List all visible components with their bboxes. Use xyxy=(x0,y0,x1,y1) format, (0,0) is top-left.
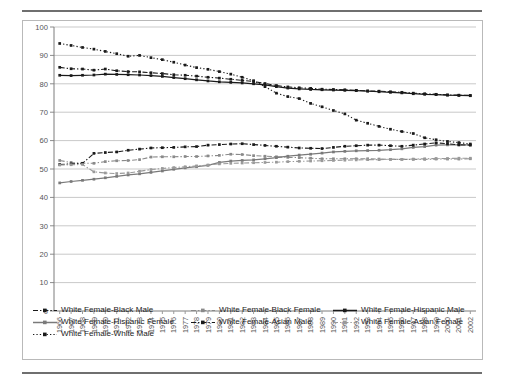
series-marker xyxy=(172,76,175,79)
series-marker xyxy=(298,88,301,91)
series-marker xyxy=(93,69,96,72)
series-marker xyxy=(115,73,118,76)
series-marker xyxy=(298,160,301,163)
series-marker xyxy=(229,162,232,165)
y-axis-tick-label: 50 xyxy=(40,165,48,174)
bottom-rule xyxy=(22,372,482,374)
series-marker xyxy=(58,164,61,167)
series-marker xyxy=(355,89,358,92)
series-marker xyxy=(366,149,369,152)
series-marker xyxy=(458,157,461,160)
series-marker xyxy=(195,66,198,69)
series-marker xyxy=(332,89,335,92)
legend-item-label: White Female-Hispanic Male xyxy=(361,306,464,314)
series-marker xyxy=(172,155,175,158)
series-marker xyxy=(104,73,107,76)
series-marker xyxy=(423,136,426,139)
series-marker xyxy=(401,130,404,133)
series-marker xyxy=(343,113,346,116)
series-marker xyxy=(241,153,244,156)
series-marker xyxy=(275,145,278,148)
series-marker xyxy=(115,69,118,72)
legend-item-label: White Female-Asian Male xyxy=(219,318,312,326)
y-axis-tick-label: 20 xyxy=(40,250,48,259)
series-marker xyxy=(321,105,324,108)
legend-item[interactable]: White Female-Black Female xyxy=(190,306,332,315)
series-marker xyxy=(264,155,267,158)
series-marker xyxy=(252,82,255,85)
series-marker xyxy=(150,56,153,59)
series-marker xyxy=(309,157,312,160)
series-marker xyxy=(389,91,392,94)
legend-item[interactable]: White Female-Asian Male xyxy=(190,318,332,327)
series-marker xyxy=(241,142,244,145)
legend-item[interactable]: White Female-Asian Female xyxy=(332,318,473,327)
series-marker xyxy=(469,94,472,97)
series-marker xyxy=(218,77,221,80)
series-marker xyxy=(229,81,232,84)
series-marker xyxy=(286,160,289,163)
series-marker xyxy=(127,73,130,76)
legend-swatch-icon xyxy=(332,306,358,315)
legend-swatch-icon xyxy=(32,318,58,327)
series-marker xyxy=(58,66,61,69)
series-marker xyxy=(81,46,84,49)
series-marker xyxy=(435,93,438,96)
series-marker xyxy=(115,159,118,162)
series-marker xyxy=(195,155,198,158)
series-marker xyxy=(115,151,118,154)
legend-item[interactable]: White Female-Hispanic Female xyxy=(32,318,190,327)
series-marker xyxy=(378,149,381,152)
series-marker xyxy=(207,68,210,71)
series-marker xyxy=(93,152,96,155)
series-marker xyxy=(93,48,96,51)
legend-item-label: White Female-Asian Female xyxy=(361,318,463,326)
series-marker xyxy=(104,151,107,154)
series-marker xyxy=(229,78,232,81)
series-marker xyxy=(150,74,153,77)
y-axis-tick-label: 40 xyxy=(40,193,48,202)
series-marker xyxy=(355,159,358,162)
series-marker xyxy=(104,68,107,71)
series-marker xyxy=(93,178,96,181)
series-marker xyxy=(138,74,141,77)
series-marker xyxy=(332,146,335,149)
series-marker xyxy=(229,143,232,146)
series-marker xyxy=(70,74,73,77)
series-marker xyxy=(93,74,96,77)
series-marker xyxy=(81,163,84,166)
legend-item[interactable]: White Female-Black Male xyxy=(32,306,190,315)
legend-swatch-icon xyxy=(32,330,58,339)
series-marker xyxy=(195,145,198,148)
series-marker xyxy=(195,75,198,78)
series-marker xyxy=(343,150,346,153)
series-marker xyxy=(423,145,426,148)
series-marker xyxy=(241,76,244,79)
series-marker xyxy=(275,92,278,95)
series-marker xyxy=(401,145,404,148)
series-marker xyxy=(184,165,187,168)
series-marker xyxy=(412,158,415,161)
legend-item[interactable]: White Female-White Male xyxy=(32,330,190,339)
legend-item[interactable]: White Female-Hispanic Male xyxy=(332,306,473,315)
series-marker xyxy=(195,78,198,81)
legend-swatch-icon xyxy=(332,318,358,327)
series-marker xyxy=(127,159,130,162)
y-axis-tick-label: 60 xyxy=(40,136,48,145)
series-marker xyxy=(366,158,369,161)
series-marker xyxy=(218,154,221,157)
series-marker xyxy=(435,142,438,145)
series-marker xyxy=(70,44,73,47)
series-marker xyxy=(70,67,73,70)
y-axis-tick-label: 10 xyxy=(40,278,48,287)
series-marker xyxy=(423,143,426,146)
series-marker xyxy=(218,143,221,146)
series-marker xyxy=(241,162,244,165)
series-marker xyxy=(264,85,267,88)
series-marker xyxy=(184,146,187,149)
series-marker xyxy=(264,144,267,147)
series-marker xyxy=(355,119,358,122)
series-marker xyxy=(469,157,472,160)
series-marker xyxy=(104,176,107,179)
series-marker xyxy=(241,79,244,82)
